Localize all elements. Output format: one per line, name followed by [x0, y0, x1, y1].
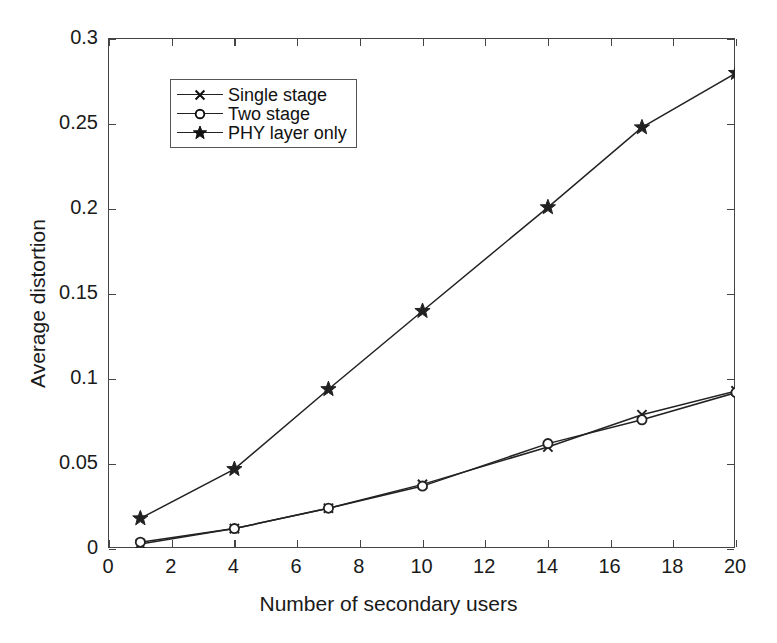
x-tick-label: 12 — [459, 556, 509, 576]
x-tick-label: 16 — [585, 556, 635, 576]
data-point — [136, 538, 145, 547]
x-axis-title: Number of secondary users — [0, 592, 777, 616]
x-tick-label: 2 — [146, 556, 196, 576]
data-point — [543, 439, 552, 448]
x-tick-label: 14 — [522, 556, 572, 576]
y-axis-title: Average distortion — [26, 219, 50, 388]
series-single-stage — [136, 386, 735, 548]
x-tick-top — [736, 39, 737, 46]
data-point — [227, 461, 242, 475]
y-tick-label: 0 — [28, 537, 98, 557]
legend-item-single-stage: Single stage — [177, 85, 347, 104]
y-tick-label: 0.1 — [28, 367, 98, 387]
data-point — [230, 524, 239, 533]
legend-item-two-stage: Two stage — [177, 104, 347, 123]
y-tick — [109, 549, 116, 550]
legend-label-phy-layer-only: PHY layer only — [228, 124, 347, 142]
x-tick-label: 6 — [271, 556, 321, 576]
star-marker-icon — [177, 124, 223, 142]
legend-item-phy-layer-only: PHY layer only — [177, 123, 347, 142]
chart-figure: Average distortion 00.050.10.150.20.250.… — [0, 0, 777, 643]
chart-legend: Single stage Two stage PHY layer only — [170, 79, 357, 148]
y-tick-label: 0.05 — [28, 452, 98, 472]
data-point — [731, 388, 735, 397]
data-point — [637, 415, 646, 424]
x-tick — [736, 540, 737, 547]
circle-marker-icon — [177, 105, 223, 123]
y-tick-right — [727, 549, 734, 550]
x-tick-label: 20 — [710, 556, 760, 576]
y-tick-label: 0.3 — [28, 27, 98, 47]
x-tick-label: 4 — [208, 556, 258, 576]
x-tick-label: 10 — [397, 556, 447, 576]
x-marker-icon — [177, 86, 223, 104]
x-tick-label: 0 — [83, 556, 133, 576]
data-point — [133, 510, 148, 524]
legend-label-single-stage: Single stage — [228, 86, 327, 104]
y-tick-label: 0.15 — [28, 282, 98, 302]
y-tick-label: 0.25 — [28, 112, 98, 132]
x-tick-label: 18 — [647, 556, 697, 576]
x-tick-label: 8 — [334, 556, 384, 576]
y-tick-label: 0.2 — [28, 197, 98, 217]
legend-label-two-stage: Two stage — [228, 105, 310, 123]
data-point — [324, 504, 333, 513]
data-point — [418, 482, 427, 491]
